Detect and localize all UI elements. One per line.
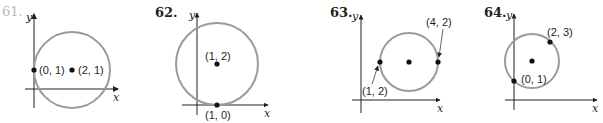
point-label-lower: (0, 1) xyxy=(521,73,547,85)
x-axis-label: x xyxy=(437,102,444,115)
x-axis-label: x xyxy=(264,107,271,120)
point-label-right: (4, 2) xyxy=(426,16,452,28)
x-axis-label: x xyxy=(592,102,599,115)
graph-62: 62. y x (1, 2) (1, 0) xyxy=(155,5,271,121)
y-axis-label: y xyxy=(351,10,359,23)
center-dot xyxy=(406,59,411,64)
center-dot xyxy=(529,58,534,63)
point-label-left: (1, 2) xyxy=(362,85,388,97)
graph-63: 63. y x (1, 2) (4, 2) xyxy=(330,5,452,115)
point-dot xyxy=(214,102,219,107)
center-label: (2, 1) xyxy=(78,64,104,76)
circle-graphs-figure: 61. y x (0, 1) (2, 1) 62. y x (1, 2) (1,… xyxy=(0,0,603,123)
point-label: (1, 0) xyxy=(205,109,231,121)
problem-number: 62. xyxy=(155,5,178,20)
point-label-upper: (2, 3) xyxy=(547,26,573,38)
center-dot xyxy=(69,67,74,72)
leader-arrow-left xyxy=(372,66,378,84)
graph-64: 64. y x (2, 3) (0, 1) xyxy=(484,5,599,115)
point-dot-left xyxy=(377,59,382,64)
problem-number: 61. xyxy=(2,4,23,19)
point-dot-lower xyxy=(511,78,516,83)
problem-number: 63. xyxy=(330,5,353,20)
graph-61: 61. y x (0, 1) (2, 1) xyxy=(2,4,120,108)
point-dot xyxy=(31,67,36,72)
leader-arrow-right xyxy=(439,29,443,57)
y-axis-label: y xyxy=(505,9,513,22)
point-label: (0, 1) xyxy=(39,64,65,76)
point-dot-right xyxy=(435,59,440,64)
y-axis-label: y xyxy=(188,9,196,22)
x-axis-label: x xyxy=(113,91,120,104)
center-label: (1, 2) xyxy=(205,50,231,62)
problem-number: 64. xyxy=(484,5,507,20)
y-axis-label: y xyxy=(25,11,33,24)
point-dot-upper xyxy=(547,39,552,44)
center-dot xyxy=(214,61,219,66)
